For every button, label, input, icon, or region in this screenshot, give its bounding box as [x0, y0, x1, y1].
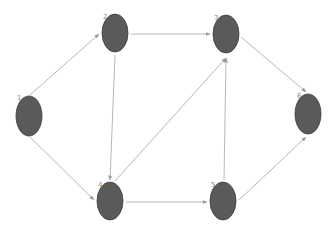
edge-2-to-4	[110, 55, 115, 180]
edge-3-to-6	[241, 37, 306, 92]
node-5[interactable]: 5	[210, 181, 236, 220]
nodes-layer: 123456	[16, 13, 321, 220]
node-label: 1	[17, 94, 21, 102]
node-3[interactable]: 3	[213, 14, 239, 53]
node-label: 4	[98, 181, 103, 189]
node-shape[interactable]	[295, 94, 321, 134]
node-6[interactable]: 6	[295, 92, 321, 134]
edge-1-to-2	[30, 34, 99, 95]
edges-layer	[30, 34, 306, 202]
node-label: 6	[297, 92, 302, 100]
node-label: 3	[214, 14, 218, 22]
node-2[interactable]: 2	[102, 13, 128, 52]
node-shape[interactable]	[16, 96, 42, 136]
edge-5-to-6	[239, 137, 306, 200]
node-1[interactable]: 1	[16, 94, 42, 136]
node-label: 5	[211, 181, 215, 189]
edge-5-to-3	[224, 58, 226, 180]
node-label: 2	[103, 13, 107, 21]
node-4[interactable]: 4	[97, 181, 123, 220]
edge-4-to-3	[115, 58, 226, 181]
edge-1-to-4	[30, 137, 94, 200]
directed-graph-canvas: 123456	[0, 0, 334, 231]
